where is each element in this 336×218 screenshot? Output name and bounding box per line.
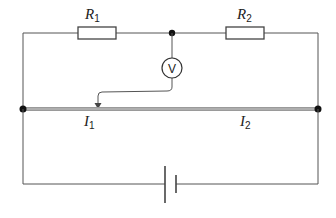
- current-label-i1: I1: [83, 113, 95, 131]
- voltmeter-branch: [98, 33, 172, 104]
- voltmeter: V: [162, 58, 182, 78]
- circuit-diagram: R1 R2 V I1 I2: [0, 0, 336, 218]
- resistor-r2: R2: [226, 6, 264, 39]
- current-label-i2: I2: [239, 113, 251, 131]
- resistor-r1: R1: [78, 6, 116, 39]
- resistor-r2-label: R2: [236, 6, 252, 24]
- resistor-r1-label: R1: [84, 6, 100, 24]
- bottom-branch: [23, 109, 318, 184]
- battery-icon: [165, 166, 176, 203]
- voltmeter-symbol: V: [168, 62, 176, 76]
